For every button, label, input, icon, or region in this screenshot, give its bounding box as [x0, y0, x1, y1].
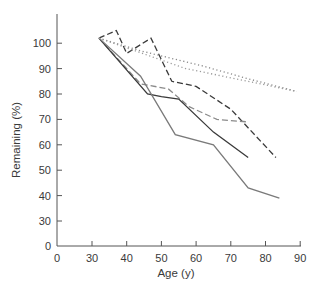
series-line	[99, 38, 248, 122]
x-tick-label: 70	[225, 252, 237, 264]
y-tick-label: 30	[39, 215, 51, 227]
x-tick-label: 90	[294, 252, 306, 264]
y-tick-label: 80	[39, 88, 51, 100]
series-line	[99, 38, 279, 198]
y-tick-label: 100	[33, 37, 51, 49]
y-tick-label: 70	[39, 113, 51, 125]
y-axis: 030405060708090100	[33, 14, 62, 252]
x-tick-label: 30	[86, 252, 98, 264]
line-chart: 030405060708090 030405060708090100 Age (…	[0, 0, 321, 298]
y-tick-label: 90	[39, 63, 51, 75]
y-tick-label: 60	[39, 139, 51, 151]
x-tick-label: 50	[155, 252, 167, 264]
x-axis-title: Age (y)	[157, 267, 194, 279]
x-tick-label: 40	[121, 252, 133, 264]
x-tick-label: 80	[259, 252, 271, 264]
y-tick-label: 0	[45, 240, 51, 252]
y-tick-label: 40	[39, 190, 51, 202]
y-tick-label: 50	[39, 164, 51, 176]
y-axis-title: Remaining (%)	[10, 102, 22, 178]
series-line	[99, 38, 248, 157]
plot-series	[99, 31, 297, 199]
x-axis: 030405060708090	[54, 241, 306, 264]
x-tick-label: 60	[190, 252, 202, 264]
x-tick-label: 0	[54, 252, 60, 264]
